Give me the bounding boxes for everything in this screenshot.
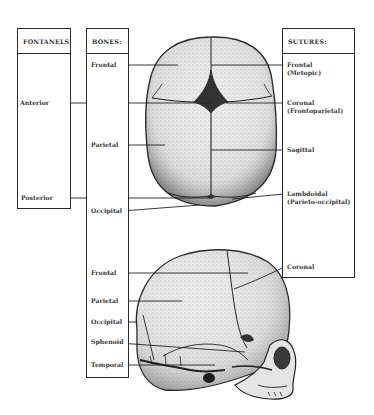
label-suture-lambdoidal: Lambdoidal (287, 190, 328, 198)
bones-header: BONES: (87, 29, 128, 54)
label-anterior-fontanel: Anterior (20, 99, 49, 107)
label-suture-sagittal: Sagittal (287, 146, 314, 154)
sutures-title: SUTURES: (288, 38, 327, 45)
label-bone-parietal-superior: Parietal (91, 141, 118, 149)
label-suture-coronal-sub: (Frontoparietal) (287, 107, 343, 115)
fontanels-panel: FONTANELS: (17, 28, 71, 209)
label-bone-parietal-lateral: Parietal (91, 297, 118, 305)
label-suture-coronal: Coronal (287, 99, 314, 107)
fontanels-header: FONTANELS: (18, 29, 70, 54)
label-posterior-fontanel: Posterior (21, 194, 53, 202)
label-bone-frontal-lateral: Frontal (91, 269, 116, 277)
label-suture-lambdoidal-sub: (Parieto-occipital) (287, 198, 350, 206)
label-bone-sphenoid: Sphenoid (91, 338, 124, 346)
lateral-skull (136, 250, 295, 399)
label-bone-frontal-superior: Frontal (91, 61, 116, 69)
label-suture-frontal: Frontal (287, 61, 312, 69)
bones-title: BONES: (92, 38, 122, 45)
label-bone-occipital-superior: Occipital (91, 207, 122, 215)
fontanels-title: FONTANELS: (23, 38, 72, 45)
superior-skull (146, 37, 276, 206)
label-bone-occipital-lateral: Occipital (91, 318, 122, 326)
label-suture-coronal-lateral: Coronal (287, 263, 314, 271)
label-suture-frontal-sub: (Metopic) (287, 69, 321, 77)
sutures-header: SUTURES: (283, 29, 354, 54)
label-bone-temporal: Temporal (91, 361, 123, 369)
